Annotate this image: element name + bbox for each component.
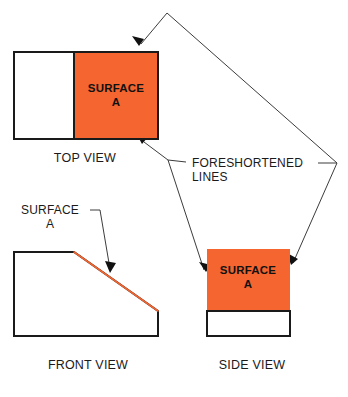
front-view-title: FRONT VIEW: [48, 358, 128, 372]
leader-apex-to-top-view: [141, 13, 167, 44]
front-view-group: SURFACE A FRONT VIEW: [14, 203, 158, 372]
side-view-surface-label-line2: A: [244, 278, 253, 290]
top-view-title: TOP VIEW: [54, 151, 116, 165]
top-view-group: SURFACE A TOP VIEW: [14, 52, 158, 165]
leader-right-vertex-to-side-view: [293, 163, 337, 263]
leader-left-vertex-to-top-view: [144, 142, 168, 160]
arrow-head-front-view-incline: [105, 261, 116, 273]
leader-stub-left-foreshortened: [168, 160, 186, 162]
side-view-title: SIDE VIEW: [219, 358, 285, 372]
foreshortened-label-line2: LINES: [192, 170, 228, 184]
side-view-lower-outline: [207, 311, 290, 336]
foreshortened-label-line1: FORESHORTENED: [192, 156, 303, 170]
top-view-surface-label-line2: A: [112, 96, 121, 108]
front-view-surface-callout-line1: SURFACE: [21, 203, 79, 217]
front-view-surface-callout-line2: A: [46, 217, 54, 231]
leader-front-surface-callout: [90, 210, 110, 269]
side-view-group: SURFACE A SIDE VIEW: [207, 249, 290, 372]
side-view-surface-label-line1: SURFACE: [220, 264, 276, 276]
technical-drawing-figure: SURFACE A TOP VIEW FORESHORTENED LINES S…: [0, 0, 348, 397]
front-view-outline: [14, 252, 158, 336]
front-view-inclined-surface-edge: [74, 252, 158, 311]
top-view-surface-label-line1: SURFACE: [88, 82, 144, 94]
leader-apex-to-right-vertex: [167, 13, 337, 163]
foreshortened-callout-group: FORESHORTENED LINES: [192, 156, 303, 184]
orthographic-projection-svg: SURFACE A TOP VIEW FORESHORTENED LINES S…: [0, 0, 348, 397]
arrow-head-top-view-upper: [132, 36, 144, 46]
